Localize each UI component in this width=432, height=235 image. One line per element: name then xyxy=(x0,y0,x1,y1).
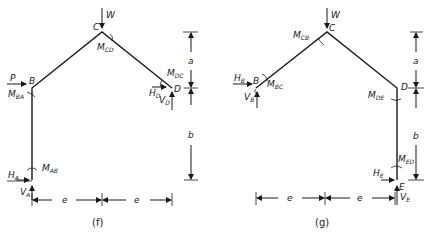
svg-text:VD: VD xyxy=(159,95,170,106)
svg-text:MDC: MDC xyxy=(167,68,184,79)
dim-e2-label: e xyxy=(134,195,140,205)
dimension-vertical-f: a b xyxy=(183,32,198,180)
figure-f: W C MCD P B MBA MDC D HD VD xyxy=(7,8,198,228)
dim-a-label: a xyxy=(413,56,419,66)
reaction-hb-label: HB xyxy=(234,73,245,84)
caption-f: (f) xyxy=(92,217,103,228)
svg-text:HA: HA xyxy=(8,170,19,181)
dim-e2-label: e xyxy=(357,193,363,203)
reaction-ve-label: VE xyxy=(400,192,410,203)
moment-cd-label: MCD xyxy=(97,42,114,53)
moment-ba-label: MBA xyxy=(8,89,24,100)
load-w-label: W xyxy=(106,10,116,20)
moment-cb-label: MCB xyxy=(293,30,309,41)
node-d-label: D xyxy=(174,84,181,94)
dimension-horizontal-f: e e xyxy=(32,193,172,206)
frame-diagrams: W C MCD P B MBA MDC D HD VD xyxy=(0,0,432,235)
frame-members-g xyxy=(256,32,397,180)
svg-text:VE: VE xyxy=(400,192,410,203)
svg-text:MED: MED xyxy=(398,154,415,165)
svg-text:HE: HE xyxy=(373,168,384,179)
node-e-label: E xyxy=(399,182,405,192)
svg-text:MBC: MBC xyxy=(267,79,284,90)
dim-e1-label: e xyxy=(62,195,68,205)
moment-dc-arc-icon xyxy=(160,80,162,87)
dim-e1-label: e xyxy=(287,193,293,203)
dim-b-label: b xyxy=(413,131,419,141)
svg-text:MBA: MBA xyxy=(8,89,24,100)
moment-ba-arc-icon xyxy=(27,92,35,97)
moment-ed-label: MED xyxy=(398,154,415,165)
load-w-label: W xyxy=(331,10,341,20)
moment-dc-label: MDC xyxy=(167,68,184,79)
svg-text:MAB: MAB xyxy=(42,163,58,174)
svg-text:VA: VA xyxy=(20,187,30,198)
reaction-he-label: HE xyxy=(373,168,384,179)
reaction-va-label: VA xyxy=(20,187,30,198)
reaction-ha-label: HA xyxy=(8,170,19,181)
dim-b-label: b xyxy=(188,130,194,140)
moment-bc-label: MBC xyxy=(267,79,284,90)
figure-g: W C MCB HB B VB MBC D MDE xyxy=(233,8,424,228)
moment-cb-arc-icon xyxy=(318,38,324,45)
dim-a-label: a xyxy=(188,56,194,66)
moment-de-label: MDE xyxy=(368,90,384,101)
svg-text:MCB: MCB xyxy=(293,30,309,41)
pin-b-icon xyxy=(255,89,257,93)
svg-text:HB: HB xyxy=(234,73,245,84)
moment-ab-label: MAB xyxy=(42,163,58,174)
load-p-label: P xyxy=(10,73,16,83)
node-c-label: C xyxy=(329,23,336,33)
svg-text:MDE: MDE xyxy=(368,90,384,101)
svg-text:VB: VB xyxy=(244,92,254,103)
caption-g: (g) xyxy=(315,217,329,228)
frame-members-f xyxy=(32,32,172,180)
svg-text:MCD: MCD xyxy=(97,42,114,53)
reaction-vb-label: VB xyxy=(244,92,254,103)
node-b-label: B xyxy=(253,76,259,86)
dimension-horizontal-g: e e xyxy=(256,192,395,205)
node-b-label: B xyxy=(29,76,35,86)
reaction-vd-label: VD xyxy=(159,95,170,106)
moment-de-arc-icon xyxy=(391,99,401,101)
node-d-label: D xyxy=(401,82,408,92)
node-c-label: C xyxy=(93,22,100,32)
